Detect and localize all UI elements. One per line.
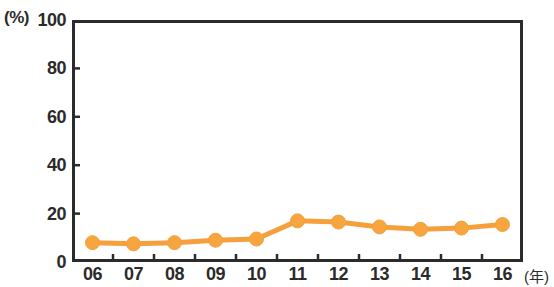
data-point-marker: [291, 214, 305, 228]
data-point-marker: [496, 217, 510, 231]
data-point-marker: [168, 236, 182, 250]
x-tick-label: 07: [124, 264, 143, 285]
x-tick-label: 06: [83, 264, 102, 285]
data-point-marker: [250, 232, 264, 246]
x-tick-label: 10: [247, 264, 266, 285]
x-tick-label: 11: [288, 264, 306, 285]
x-axis-tick-labels: 0607080910111213141516: [72, 264, 523, 287]
x-tick-label: 09: [206, 264, 225, 285]
data-point-marker: [209, 233, 223, 247]
line-chart: (%) 020406080100 0607080910111213141516 …: [0, 0, 554, 287]
data-point-marker: [127, 237, 141, 251]
data-point-marker: [332, 215, 346, 229]
x-tick-label: 16: [493, 264, 512, 285]
data-point-marker: [86, 236, 100, 250]
data-point-marker: [373, 220, 387, 234]
x-axis-unit-label: (年): [524, 265, 549, 286]
x-tick-label: 15: [452, 264, 471, 285]
data-series-layer: [72, 20, 523, 262]
x-tick-label: 13: [370, 264, 389, 285]
x-tick-label: 12: [329, 264, 348, 285]
x-tick-label: 08: [165, 264, 184, 285]
x-tick-label: 14: [411, 264, 430, 285]
data-point-marker: [414, 222, 428, 236]
data-point-marker: [455, 221, 469, 235]
